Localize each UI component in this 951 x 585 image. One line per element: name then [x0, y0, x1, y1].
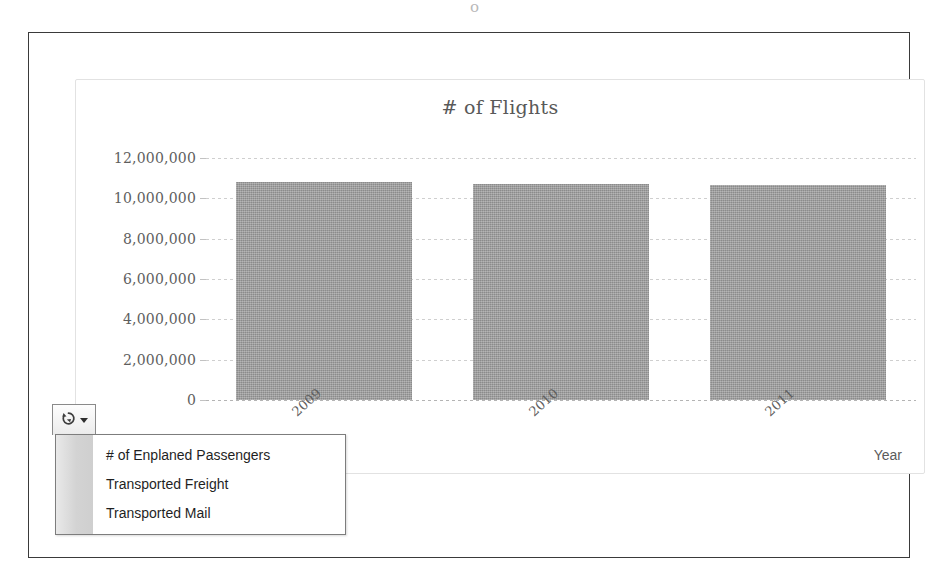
chart-container: # of Flights 12,000,00010,000,0008,000,0…	[75, 79, 925, 474]
y-axis-label: 6,000,000	[123, 271, 196, 287]
y-axis-label: 2,000,000	[123, 352, 196, 368]
y-axis-label: 8,000,000	[123, 231, 196, 247]
menu-gutter	[56, 435, 94, 534]
y-axis-label: 4,000,000	[123, 311, 196, 327]
x-axis-title: Year	[874, 447, 902, 463]
menu-item-enplaned-passengers[interactable]: # of Enplaned Passengers	[102, 441, 345, 470]
refresh-cycle-icon	[60, 410, 77, 431]
y-axis-tick	[200, 279, 206, 280]
plot-area: 12,000,00010,000,0008,000,0006,000,0004,…	[206, 158, 916, 400]
y-axis-tick	[200, 360, 206, 361]
y-axis-label: 0	[187, 392, 196, 408]
gridline	[206, 158, 916, 159]
menu-item-transported-freight[interactable]: Transported Freight	[102, 470, 345, 499]
y-axis-tick	[200, 158, 206, 159]
y-axis-tick	[200, 198, 206, 199]
y-axis-label: 10,000,000	[114, 190, 196, 206]
menu-item-list: # of Enplaned Passengers Transported Fre…	[94, 435, 345, 534]
y-axis-tick	[200, 400, 206, 401]
scan-artifact: o	[470, 0, 484, 14]
bar-2011[interactable]	[710, 185, 886, 400]
bar-2009[interactable]	[236, 182, 412, 400]
series-cycle-button[interactable]	[52, 404, 96, 435]
y-axis-label: 12,000,000	[114, 150, 196, 166]
series-dropdown-menu: # of Enplaned Passengers Transported Fre…	[55, 434, 346, 535]
bar-2010[interactable]	[473, 184, 649, 400]
caret-down-icon	[80, 418, 88, 423]
y-axis-tick	[200, 239, 206, 240]
y-axis-tick	[200, 319, 206, 320]
menu-item-transported-mail[interactable]: Transported Mail	[102, 499, 345, 528]
chart-title: # of Flights	[76, 96, 924, 118]
